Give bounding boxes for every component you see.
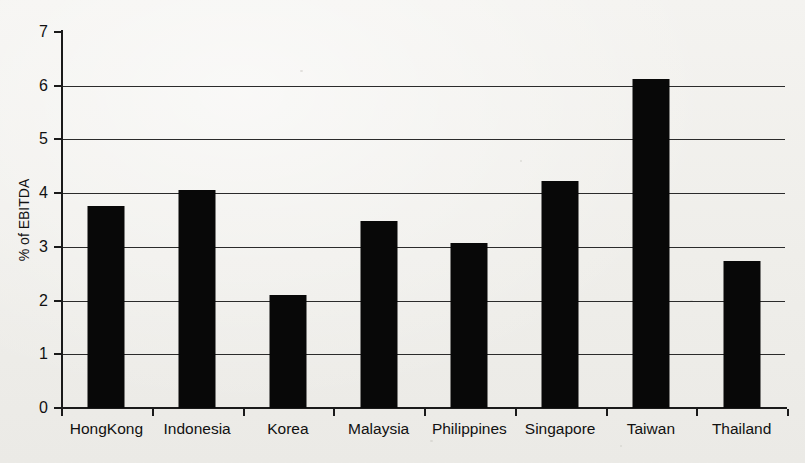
x-tick-label-thailand: Thailand xyxy=(712,420,771,438)
y-tick-mark-3 xyxy=(54,246,61,248)
x-tick-label-taiwan: Taiwan xyxy=(627,420,675,438)
bar xyxy=(723,261,760,408)
bar-slot xyxy=(515,32,606,408)
bar xyxy=(179,190,216,408)
bar-slot xyxy=(333,32,424,408)
y-tick-mark-7 xyxy=(54,31,61,33)
bar xyxy=(360,221,397,408)
x-tick-label-indonesia: Indonesia xyxy=(164,420,231,438)
y-tick-mark-2 xyxy=(54,300,61,302)
bar-slot xyxy=(243,32,334,408)
x-tick-mark xyxy=(152,409,154,416)
y-tick-label: 0 xyxy=(22,399,48,417)
y-tick-mark-1 xyxy=(54,353,61,355)
bar-slot xyxy=(696,32,787,408)
x-tick-mark xyxy=(606,409,608,416)
y-tick-mark-0 xyxy=(54,407,61,409)
bar xyxy=(632,79,669,408)
y-tick-label: 4 xyxy=(22,184,48,202)
y-tick-mark-4 xyxy=(54,192,61,194)
y-tick-label: 6 xyxy=(22,77,48,95)
x-tick-label-singapore: Singapore xyxy=(525,420,596,438)
chart-container: % of EBITDA 01234567 HongKongIndonesiaKo… xyxy=(0,0,805,463)
bar xyxy=(542,181,579,408)
bar-slot xyxy=(152,32,243,408)
bar-slot xyxy=(606,32,697,408)
x-tick-label-korea: Korea xyxy=(267,420,308,438)
bar-slot xyxy=(61,32,152,408)
bar xyxy=(88,206,125,408)
x-tick-mark xyxy=(424,409,426,416)
x-tick-label-hongkong: HongKong xyxy=(70,420,143,438)
x-tick-label-malaysia: Malaysia xyxy=(348,420,409,438)
bar xyxy=(451,243,488,408)
x-axis-ticks: HongKongIndonesiaKoreaMalaysiaPhilippine… xyxy=(61,409,787,463)
y-tick-label: 1 xyxy=(22,345,48,363)
y-tick-label: 7 xyxy=(22,23,48,41)
x-tick-mark xyxy=(243,409,245,416)
x-tick-mark xyxy=(333,409,335,416)
y-tick-mark-6 xyxy=(54,85,61,87)
x-axis-end-cap xyxy=(61,409,63,416)
y-tick-label: 3 xyxy=(22,238,48,256)
x-axis-end-cap xyxy=(787,409,789,416)
y-tick-mark-5 xyxy=(54,138,61,140)
x-tick-label-philippines: Philippines xyxy=(432,420,507,438)
bar-slot xyxy=(424,32,515,408)
x-tick-mark xyxy=(515,409,517,416)
y-tick-label: 2 xyxy=(22,292,48,310)
x-tick-mark xyxy=(696,409,698,416)
bar-series xyxy=(61,32,787,408)
y-tick-label: 5 xyxy=(22,130,48,148)
bar xyxy=(269,295,306,408)
